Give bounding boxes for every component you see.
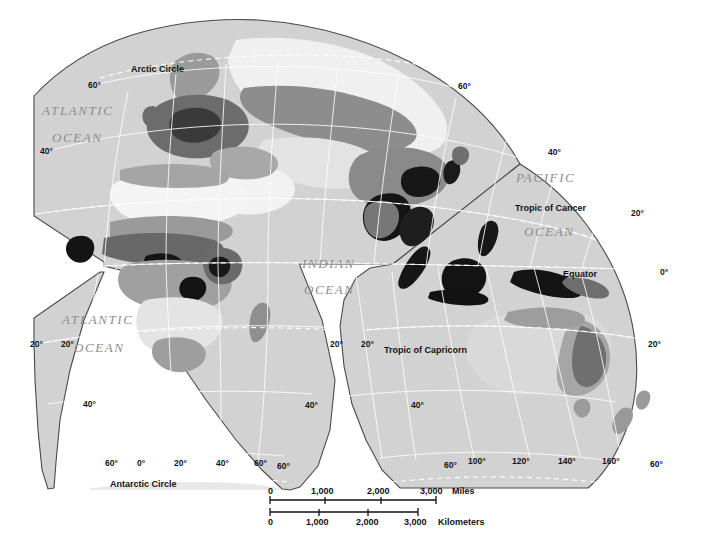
region-class-medium-south-africa: [152, 337, 206, 372]
scale-miles-tick-0: 0: [268, 486, 273, 496]
world-map: ATLANTIC OCEAN ATLANTIC OCEAN INDIAN OCE…: [0, 0, 707, 555]
ocean-body-southwest: [34, 272, 104, 489]
region-class-lowest-antarctic-fringe: [88, 482, 284, 490]
region-class-highest-guinea-coast: [66, 236, 94, 263]
map-canvas: [0, 0, 707, 555]
scale-miles-tick-3000: 3,000: [420, 486, 443, 496]
region-class-medium-new-zealand: [636, 390, 651, 409]
scale-miles-tick-2000: 2,000: [367, 486, 390, 496]
scale-miles-tick-1000: 1,000: [311, 486, 334, 496]
scale-bar: 0 1,000 2,000 3,000 Miles 0 1,000 2,000 …: [268, 482, 468, 524]
